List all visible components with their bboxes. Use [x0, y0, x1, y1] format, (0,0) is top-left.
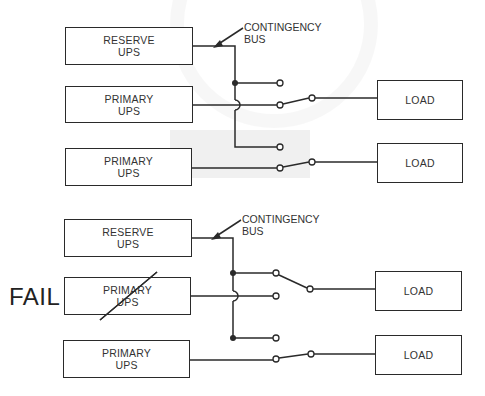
- primary-ups-box-2: PRIMARYUPS: [65, 148, 192, 186]
- primary-ups-label-2: UPS: [104, 105, 153, 117]
- primary-ups-label-2: UPS: [102, 359, 151, 371]
- reserve-ups-label-1: RESERVE: [103, 34, 154, 46]
- contingency-bus-label: CONTINGENCY BUS: [244, 21, 322, 45]
- primary-ups-box-2: PRIMARYUPS: [63, 340, 190, 378]
- load-label: LOAD: [404, 285, 433, 297]
- reserve-ups-box: RESERVEUPS: [65, 27, 193, 65]
- primary-ups-label-2: UPS: [104, 167, 153, 179]
- load-box-2: LOAD: [377, 143, 463, 183]
- primary-ups-label-1: PRIMARY: [104, 155, 153, 167]
- ups-diagram-canvas: RESERVEUPS PRIMARYUPS PRIMARYUPS LOAD LO…: [0, 0, 485, 396]
- primary-ups-label-1: PRIMARY: [103, 284, 152, 296]
- reserve-ups-label-1: RESERVE: [102, 226, 153, 238]
- load-label: LOAD: [405, 94, 434, 106]
- load-box-2: LOAD: [375, 335, 462, 375]
- reserve-ups-label-2: UPS: [103, 46, 154, 58]
- failed-primary-ups-box: PRIMARYUPS: [64, 277, 191, 315]
- fail-label: FAIL: [9, 283, 60, 311]
- load-label: LOAD: [405, 157, 434, 169]
- reserve-ups-label-2: UPS: [102, 238, 153, 250]
- primary-ups-label-1: PRIMARY: [102, 347, 151, 359]
- primary-ups-box-1: PRIMARYUPS: [65, 86, 193, 123]
- reserve-ups-box: RESERVEUPS: [64, 219, 192, 257]
- load-box-1: LOAD: [377, 80, 463, 120]
- load-label: LOAD: [404, 349, 433, 361]
- primary-ups-label-2: UPS: [103, 296, 152, 308]
- primary-ups-label-1: PRIMARY: [104, 93, 153, 105]
- load-box-1: LOAD: [375, 271, 462, 311]
- contingency-bus-label: CONTINGENCY BUS: [242, 213, 320, 237]
